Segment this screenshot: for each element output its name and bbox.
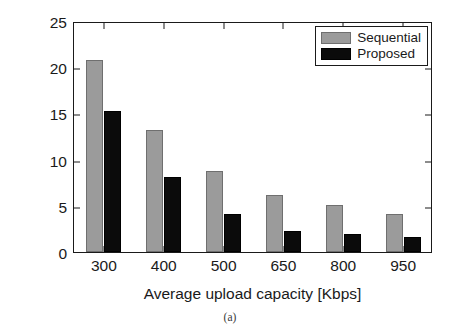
- bar-proposed-400: [164, 177, 181, 252]
- x-tick-mark: [283, 23, 284, 29]
- y-tick-mark: [425, 115, 431, 116]
- plot-area: 0510152025 300400500650800950 Sequential…: [73, 22, 432, 253]
- y-tick-label: 0: [58, 245, 74, 263]
- black-swatch-icon: [321, 48, 351, 60]
- y-tick-label: 5: [58, 199, 74, 217]
- legend-item-proposed: Proposed: [321, 47, 421, 61]
- figure: Average seeking delay [s] 0510152025 300…: [0, 0, 460, 333]
- y-tick-mark: [74, 161, 80, 162]
- bar-proposed-650: [284, 231, 301, 252]
- x-axis-label: Average upload capacity [Kbps]: [73, 285, 432, 303]
- bar-sequential-400: [146, 130, 163, 252]
- y-tick-label: 10: [50, 153, 74, 171]
- x-tick-label: 400: [151, 257, 177, 275]
- x-tick-mark: [223, 23, 224, 29]
- x-tick-label: 950: [390, 257, 416, 275]
- legend-label-sequential: Sequential: [357, 31, 421, 45]
- gray-swatch-icon: [321, 32, 351, 44]
- y-tick-mark: [74, 207, 80, 208]
- bar-sequential-300: [86, 60, 103, 252]
- bar-sequential-500: [206, 171, 223, 252]
- x-tick-mark: [103, 23, 104, 29]
- bar-sequential-800: [326, 205, 343, 252]
- x-tick-mark: [163, 23, 164, 29]
- bar-sequential-650: [266, 195, 283, 252]
- legend: Sequential Proposed: [315, 26, 428, 66]
- bar-proposed-300: [104, 111, 121, 252]
- figure-caption: (a): [0, 311, 460, 323]
- bar-sequential-950: [386, 214, 403, 252]
- y-tick-mark: [425, 161, 431, 162]
- y-tick-label: 25: [50, 14, 74, 32]
- y-tick-label: 20: [50, 60, 74, 78]
- y-tick-mark: [74, 69, 80, 70]
- x-tick-label: 500: [211, 257, 237, 275]
- bar-proposed-500: [224, 214, 241, 252]
- x-tick-label: 800: [330, 257, 356, 275]
- y-tick-mark: [425, 69, 431, 70]
- y-tick-label: 15: [50, 106, 74, 124]
- x-tick-label: 650: [270, 257, 296, 275]
- bar-proposed-800: [344, 234, 361, 252]
- bar-proposed-950: [404, 237, 421, 252]
- y-tick-mark: [425, 207, 431, 208]
- x-tick-label: 300: [91, 257, 117, 275]
- legend-label-proposed: Proposed: [357, 47, 415, 61]
- y-tick-mark: [74, 115, 80, 116]
- legend-item-sequential: Sequential: [321, 31, 421, 45]
